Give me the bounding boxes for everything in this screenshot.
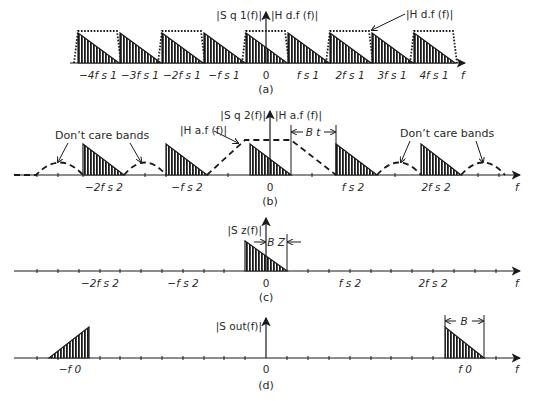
y-label-filter: |H a.f (f)|	[275, 109, 322, 122]
callout-arrow	[58, 143, 68, 162]
y-label-spectrum: |S q 2(f)|	[220, 109, 266, 122]
tick-label: −f s 2	[167, 277, 199, 289]
tick-label: 3f s 1	[377, 69, 406, 81]
tick-label: f s 2	[342, 181, 365, 193]
callout-arrow	[372, 14, 405, 30]
axis-label-f: f	[515, 181, 521, 193]
caption-a: (a)	[258, 83, 273, 96]
dont-care-label-right: Don’t care bands	[400, 127, 494, 140]
tick-labels: −2f s 2 −f s 2 0 f s 2 2f s 2	[81, 277, 448, 289]
bandwidth-label: B t	[306, 126, 322, 138]
panel-a: |S q 1(f)| |H d.f (f)| |H d.f (f)| −4f s…	[70, 8, 467, 96]
caption-d: (d)	[258, 379, 274, 392]
tick-label: 0	[267, 181, 274, 193]
tick-label: −4f s 1	[79, 69, 117, 81]
tick-label: 2f s 1	[335, 69, 364, 81]
tick-label: −2f s 2	[85, 181, 123, 193]
bandwidth-label: B Z	[267, 236, 286, 248]
spectrum-figure: |S q 1(f)| |H d.f (f)| |H d.f (f)| −4f s…	[0, 0, 533, 401]
caption-c: (c)	[259, 291, 274, 304]
tick-label: −2f s 2	[81, 277, 119, 289]
panel-d: |S out(f)| B −f 0 0 f 0 f (d)	[14, 315, 521, 392]
tick-labels: −2f s 2 −f s 2 0 f s 2 2f s 2	[85, 181, 451, 193]
y-label-spectrum: |S out(f)|	[216, 320, 262, 333]
bandwidth-bt-marker: B t	[291, 125, 336, 175]
tick-labels: −f 0 0 f 0	[59, 363, 472, 375]
bandwidth-label: B	[460, 315, 467, 327]
axis-label-f: f	[515, 277, 521, 289]
tick-label: 0	[263, 69, 270, 81]
y-label-filter: |H d.f (f)|	[271, 9, 318, 22]
tick-label: 4f s 1	[419, 69, 448, 81]
tick-label: −f 0	[59, 363, 82, 375]
y-label-spectrum: |S q 1(f)|	[216, 9, 262, 22]
axis-label-f: f	[515, 363, 521, 375]
filter-callout-label: |H a.f (f)|	[180, 124, 227, 137]
axis-label-f: f	[461, 69, 467, 81]
callout-arrow	[401, 141, 410, 162]
callout-arrow	[130, 143, 141, 162]
filter-callout-label: |H d.f (f)|	[406, 8, 453, 21]
callout-arrow	[476, 141, 483, 162]
panel-c: |S z(f)| B Z −2f s 2 −f s 2 0 f s 2 2f s…	[14, 218, 521, 304]
tick-label: −3f s 1	[121, 69, 159, 81]
tick-label: 0	[263, 277, 270, 289]
tick-label: −f s 1	[208, 69, 239, 81]
y-label-spectrum: |S z(f)|	[228, 224, 262, 237]
tick-label: −2f s 1	[163, 69, 201, 81]
tick-label: 2f s 2	[421, 181, 451, 193]
tick-label: f 0	[458, 363, 472, 375]
negative-band-spectrum	[49, 327, 89, 358]
tick-label: −f s 2	[171, 181, 203, 193]
tick-label: f s 2	[339, 277, 362, 289]
tick-label: 2f s 2	[418, 277, 448, 289]
tick-labels: −4f s 1 −3f s 1 −2f s 1 −f s 1 0 f s 1 2…	[79, 69, 449, 81]
panel-b: |S q 2(f)| |H a.f (f)| B t |H a.f (f)| D…	[14, 109, 521, 208]
dont-care-label-left: Don’t care bands	[55, 129, 149, 142]
caption-b: (b)	[262, 195, 278, 208]
positive-band-spectrum	[445, 327, 484, 358]
tick-label: f s 1	[297, 69, 320, 81]
tick-label: 0	[263, 363, 270, 375]
